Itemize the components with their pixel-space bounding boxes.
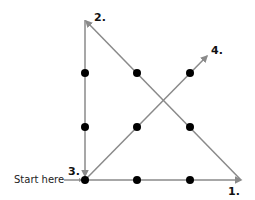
dot — [186, 123, 194, 131]
dot — [186, 176, 194, 184]
step-2-label: 2. — [94, 12, 106, 23]
step-3-label: 3. — [68, 166, 80, 177]
dot — [133, 69, 141, 77]
dot — [133, 123, 141, 131]
start-here-label: Start here — [14, 175, 64, 185]
diagram-canvas — [0, 0, 255, 200]
dot — [81, 69, 89, 77]
nine-dot-diagram: 1. 2. 3. 4. Start here — [0, 0, 255, 200]
dot — [81, 123, 89, 131]
dot — [133, 176, 141, 184]
step-4-label: 4. — [211, 45, 223, 56]
step-1-label: 1. — [228, 186, 240, 197]
dot — [186, 69, 194, 77]
dot — [81, 176, 89, 184]
